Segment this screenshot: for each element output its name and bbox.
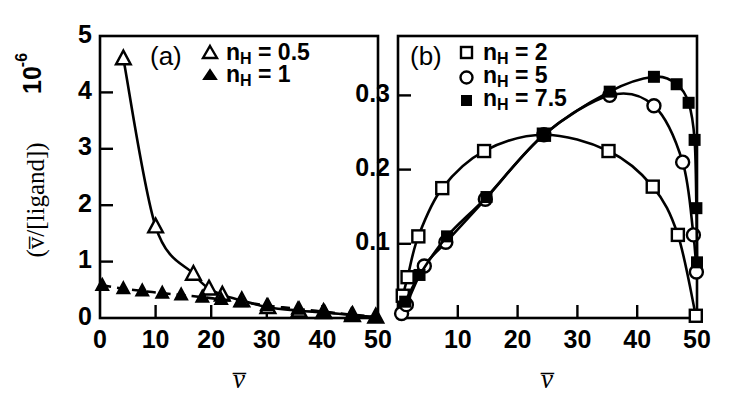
panel-b-y-ticks — [398, 95, 411, 243]
panel-b-x-ticklabels: 10 20 30 40 50 — [444, 325, 711, 353]
square-open-icon — [461, 47, 472, 58]
panel-b-yticklabel-2: 0.3 — [355, 79, 390, 107]
data-point — [672, 229, 684, 241]
panel-a-yticklabel-1: 1 — [78, 245, 92, 273]
series-n-h-5 — [395, 89, 703, 320]
panel-b-yticklabel-0: 0.1 — [355, 227, 390, 255]
panel-b-legend-value-2: 7.5 — [535, 85, 567, 111]
nh-sub: H — [497, 50, 509, 67]
data-point — [478, 145, 490, 157]
data-point — [649, 72, 659, 82]
figure-root: (v̅/[ligand]) 10 -6 0 1 2 3 — [0, 0, 733, 418]
nh-base: n — [483, 85, 497, 111]
data-point — [684, 98, 694, 108]
panel-b-legend-entry-2: nH = 7.5 — [462, 85, 567, 113]
panel-a-yticklabel-2: 2 — [78, 189, 92, 217]
data-point — [676, 156, 689, 169]
data-point — [690, 135, 700, 145]
data-point — [436, 182, 448, 194]
panel-a-data-layer — [96, 51, 383, 323]
panel-b-legend-label-2: nH = 7.5 — [483, 85, 567, 113]
panel-b-xticklabel-5: 50 — [683, 325, 711, 353]
panel-a-yticklabel-3: 3 — [78, 132, 92, 160]
panel-b-xticklabel-2: 20 — [504, 325, 532, 353]
panel-a-xticklabel-3: 30 — [253, 325, 281, 353]
panel-a-yticklabel-0: 0 — [78, 302, 92, 330]
data-point — [96, 279, 108, 290]
data-point — [647, 99, 660, 112]
panel-a-legend-label-1: nH = 1 — [226, 61, 291, 89]
nh-sub: H — [240, 50, 252, 67]
panel-a-xticklabel-4: 40 — [308, 325, 336, 353]
data-point — [692, 257, 702, 267]
panel-b-y-ticklabels: 0.1 0.2 0.3 — [355, 79, 390, 255]
data-point — [148, 219, 163, 233]
triangle-open-icon — [203, 46, 217, 58]
triangle-filled-icon — [204, 70, 216, 79]
data-point — [412, 230, 424, 242]
panel-a-xticklabel-2: 20 — [197, 325, 225, 353]
data-point — [116, 51, 131, 65]
panel-a-xticklabel-1: 10 — [142, 325, 170, 353]
panel-a-yticklabel-4: 4 — [78, 76, 92, 104]
series-n-h-0.5 — [116, 51, 383, 323]
nh-eq: = — [258, 61, 271, 87]
y-axis-exponent-base: 10 — [18, 66, 46, 94]
data-point — [415, 270, 425, 280]
data-point — [402, 271, 414, 283]
data-point — [482, 192, 492, 202]
nh-eq: = — [515, 85, 528, 111]
panel-a-legend: nH = 0.5 nH = 1 — [203, 39, 310, 89]
square-filled-icon — [462, 96, 471, 105]
panel-a-legend-value-1: 1 — [278, 61, 291, 87]
nh-base: n — [226, 61, 240, 87]
panel-b-xticklabel-4: 40 — [623, 325, 651, 353]
panel-a-y-ticklabels: 0 1 2 3 4 5 — [78, 20, 92, 330]
nh-sub: H — [497, 96, 509, 113]
panel-b-x-ticks — [458, 305, 637, 318]
panel-a: 0 1 2 3 4 5 0 10 20 30 40 50 — [78, 20, 392, 395]
data-point — [442, 231, 452, 241]
panel-a-xticklabel-0: 0 — [93, 325, 107, 353]
data-point — [605, 87, 615, 97]
panel-a-xticklabel-5: 50 — [364, 325, 392, 353]
data-point — [691, 203, 701, 213]
panel-b: 0.1 0.2 0.3 10 20 30 40 50 (b) — [355, 36, 711, 394]
data-point — [690, 310, 702, 322]
y-axis-exponent-power: -6 — [13, 53, 30, 67]
panel-b-x-axis-title: v̅ — [540, 364, 555, 394]
series-line — [402, 93, 697, 313]
panel-a-y-ticks — [100, 92, 113, 261]
nh-sub: H — [240, 72, 252, 89]
series-n-h-2 — [397, 129, 702, 322]
data-point — [602, 145, 614, 157]
panel-b-xticklabel-1: 10 — [444, 325, 472, 353]
y-axis-title: (v̅/[ligand]) 10 -6 — [13, 53, 50, 258]
two-panel-scatter-figure: (v̅/[ligand]) 10 -6 0 1 2 3 — [0, 0, 733, 418]
panel-b-legend: nH = 2 nH = 5 nH = 7.5 — [461, 39, 568, 113]
panel-a-label: (a) — [150, 41, 182, 71]
panel-a-x-ticklabels: 0 10 20 30 40 50 — [93, 325, 392, 353]
data-point — [539, 130, 549, 140]
series-line — [403, 135, 696, 316]
data-point — [400, 297, 410, 307]
circle-open-icon — [461, 72, 473, 84]
panel-b-yticklabel-1: 0.2 — [355, 153, 390, 181]
panel-b-xticklabel-3: 30 — [563, 325, 591, 353]
data-point — [647, 181, 659, 193]
nh-sub: H — [497, 73, 509, 90]
series-line — [123, 59, 375, 317]
panel-a-yticklabel-5: 5 — [78, 20, 92, 48]
panel-b-label: (b) — [410, 41, 442, 71]
data-point — [672, 79, 682, 89]
panel-a-x-axis-title: v̅ — [232, 364, 247, 394]
y-axis-title-main: (v̅/[ligand]) — [22, 142, 50, 257]
